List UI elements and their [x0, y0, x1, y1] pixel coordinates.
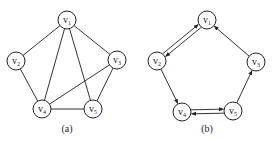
node-v2: v2: [148, 52, 166, 70]
edge-v3-v5: [97, 68, 113, 101]
edge-v1-v3: [74, 26, 110, 55]
node-v2: v2: [7, 52, 25, 70]
node-v1: v1: [58, 11, 76, 29]
node-v3: v3: [108, 51, 126, 69]
edge-v2-v4: [161, 69, 178, 103]
caption-b: (b): [201, 123, 213, 135]
node-v3: v3: [247, 53, 265, 71]
node-v4: v4: [173, 103, 191, 121]
directed-graph-b: v1v2v3v4v5(b): [148, 11, 265, 135]
edge-v1-v4: [44, 29, 64, 101]
edge-v4-v5: [191, 109, 224, 110]
caption-a: (a): [61, 123, 72, 135]
graph-diagram: v1v2v3v4v5(a) v1v2v3v4v5(b): [0, 0, 273, 145]
edge-v5-v4: [192, 113, 225, 114]
edge-v5-v3: [237, 71, 252, 103]
node-v5: v5: [224, 102, 242, 120]
edge-v2-v4: [20, 69, 37, 101]
edge-v2-v1: [163, 24, 199, 53]
node-v4: v4: [33, 100, 51, 118]
edge-v3-v4: [50, 65, 110, 104]
undirected-graph-a: v1v2v3v4v5(a): [7, 11, 126, 135]
node-v1: v1: [198, 11, 216, 29]
edge-v3-v1: [214, 26, 249, 56]
node-v5: v5: [84, 100, 102, 118]
edge-v1-v5: [70, 29, 91, 101]
edge-v1-v2: [166, 27, 202, 56]
edge-v1-v2: [23, 26, 60, 56]
